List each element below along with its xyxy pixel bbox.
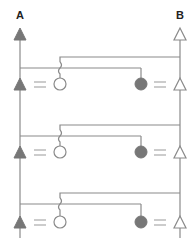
hollow-circle-icon (54, 78, 66, 90)
equals-icon (154, 220, 166, 225)
filled-triangle-icon (14, 78, 26, 90)
row-1-symbols (14, 78, 186, 90)
hollow-circle-icon (54, 216, 66, 228)
filled-triangle-icon (14, 216, 26, 228)
filled-triangle-icon (14, 146, 26, 158)
row-3-symbols (14, 216, 186, 228)
hollow-triangle-icon (174, 146, 186, 158)
row-3-wires (20, 193, 180, 216)
row-2-wires (20, 125, 180, 147)
equals-icon (34, 150, 46, 155)
top-filled-triangle-icon (14, 28, 26, 40)
equals-icon (154, 150, 166, 155)
filled-circle-icon (135, 78, 147, 90)
hollow-triangle-icon (174, 78, 186, 90)
equals-icon (34, 82, 46, 87)
hollow-circle-icon (54, 146, 66, 158)
filled-circle-icon (135, 146, 147, 158)
row-2-symbols (14, 146, 186, 158)
circuit-diagram (0, 0, 196, 243)
hollow-triangle-icon (174, 216, 186, 228)
top-hollow-triangle-icon (174, 28, 186, 40)
filled-circle-icon (135, 216, 147, 228)
equals-icon (154, 82, 166, 87)
equals-icon (34, 220, 46, 225)
row-1-wires (20, 57, 180, 79)
